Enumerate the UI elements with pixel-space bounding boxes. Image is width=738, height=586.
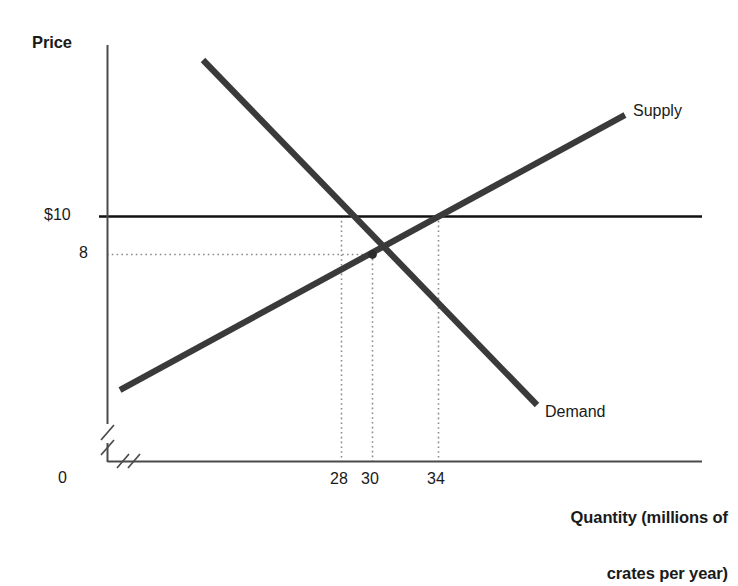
y-axis-tick-label-10: $10	[44, 206, 71, 224]
x-axis-tick-label-28: 28	[330, 470, 348, 488]
y-axis-tick-label-8: 8	[79, 244, 88, 262]
price-axis-title: Price	[32, 33, 72, 52]
demand-curve	[203, 60, 537, 405]
equilibrium-point-marker	[368, 250, 377, 259]
x-axis-tick-label-30: 30	[361, 470, 379, 488]
quantity-axis-title-line1: Quantity (millions of	[520, 508, 728, 527]
demand-curve-label: Demand	[545, 403, 605, 421]
y-axis-break-slash-upper	[101, 425, 114, 440]
quantity-axis-title-line2: crates per year)	[520, 564, 728, 583]
supply-curve-label: Supply	[633, 102, 682, 120]
quantity-axis-title: Quantity (millions of crates per year)	[520, 470, 728, 586]
x-axis-tick-label-34: 34	[427, 470, 445, 488]
axes	[108, 45, 703, 462]
origin-label: 0	[58, 469, 67, 487]
